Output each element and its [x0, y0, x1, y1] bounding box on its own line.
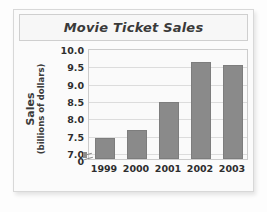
y-axis-tick-8-0: 8.0 [67, 114, 84, 125]
x-axis-tick-1999: 1999 [91, 163, 117, 174]
y-axis-tick-9-0: 9.0 [67, 79, 84, 90]
bar-2000 [127, 130, 146, 159]
chart-card: Movie Ticket Sales Sales (billions of do… [13, 9, 254, 192]
bar-1999 [95, 138, 114, 159]
y-axis-tick-9-5: 9.5 [67, 62, 84, 73]
chart-title-box: Movie Ticket Sales [19, 14, 248, 41]
bar-2002 [191, 62, 210, 159]
y-axis-tick-7-0: 7.0 [67, 149, 84, 160]
y-axis-tick-8-5: 8.5 [67, 97, 84, 108]
x-axis-tick-labels: 19992000200120022003 [88, 163, 248, 179]
bar-2001 [159, 102, 178, 159]
plot-area [88, 49, 248, 160]
bar-2003 [223, 65, 242, 159]
y-axis-title-line-2: (billions of dollars) [36, 64, 45, 155]
y-axis-title-line-1: Sales [25, 64, 37, 155]
x-axis-tick-2002: 2002 [187, 163, 213, 174]
y-axis-title: Sales (billions of dollars) [22, 50, 48, 168]
chart-figure: Movie Ticket Sales Sales (billions of do… [0, 0, 267, 212]
y-axis-tick-labels: 07.07.58.08.59.09.510.0 [48, 49, 86, 171]
page-title: Movie Ticket Sales [64, 20, 204, 35]
x-axis-tick-2003: 2003 [219, 163, 245, 174]
y-axis-tick-10-0: 10.0 [61, 45, 84, 56]
y-axis-tick-7-5: 7.5 [67, 131, 84, 142]
x-axis-tick-2001: 2001 [155, 163, 181, 174]
bar-series [89, 50, 247, 159]
x-axis-tick-2000: 2000 [123, 163, 149, 174]
axis-break-icon [83, 150, 95, 161]
